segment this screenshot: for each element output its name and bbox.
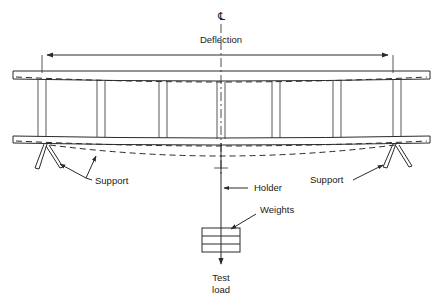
ladder-rung [272, 81, 280, 138]
bottom-rail-upper-edge [13, 136, 430, 138]
ladder-top-rail [13, 71, 430, 82]
support-right-callout: Support [310, 165, 383, 185]
weights-leader [231, 214, 256, 229]
test-load-label-line2: load [212, 284, 230, 295]
support-right [383, 144, 412, 168]
ladder-rungs-group [38, 79, 401, 139]
centerline-symbol-group: ℄ [217, 10, 225, 22]
ladder-rung [393, 79, 401, 137]
ladder-rung [97, 80, 105, 137]
ladder-rung [159, 81, 167, 138]
holder-label: Holder [254, 182, 282, 193]
centerline-symbol: ℄ [217, 10, 225, 22]
weights-callout: Weights [231, 204, 294, 229]
support-left [35, 144, 63, 169]
deflection-curve-dashed [50, 145, 395, 156]
support-right-leader [353, 165, 383, 180]
support-left-callout: Support [60, 156, 129, 186]
ladder-rung [38, 79, 46, 137]
holder-callout: Holder [224, 182, 282, 193]
weights-label: Weights [260, 204, 294, 215]
diagram-canvas: ℄ Deflection [0, 0, 443, 298]
span-dimension-line-group [42, 55, 393, 73]
ladder-rung [333, 80, 341, 137]
support-left-label: Support [95, 175, 129, 186]
support-left-leader-a [60, 164, 86, 178]
support-left-leader-tail [86, 178, 92, 180]
ladder-deflection-test-diagram: ℄ Deflection [0, 0, 443, 298]
support-right-label: Support [310, 174, 344, 185]
test-load-label-line1: Test [212, 272, 230, 283]
